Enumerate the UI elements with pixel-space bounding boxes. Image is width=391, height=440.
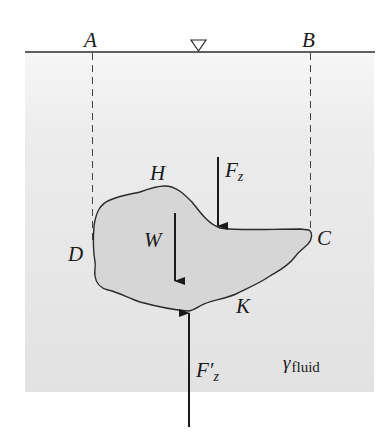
label-force-fz-prime: F′z	[196, 360, 219, 384]
label-point-a: A	[84, 30, 97, 51]
label-force-fz-main: F	[225, 158, 238, 182]
label-force-fz-prime-main: F′	[196, 358, 213, 382]
label-gamma-symbol: γ	[283, 352, 291, 373]
label-point-h: H	[150, 163, 165, 184]
free-surface-triangle-icon	[191, 40, 206, 51]
label-force-fz-sub: z	[238, 169, 243, 184]
label-point-d: D	[68, 244, 83, 265]
label-force-fz-prime-sub: z	[213, 369, 218, 384]
label-point-b: B	[302, 30, 315, 51]
label-fluid-specific-weight: γfluid	[283, 353, 320, 372]
label-gamma-sub: fluid	[292, 359, 320, 375]
label-point-k: K	[236, 296, 250, 317]
label-weight: W	[144, 230, 162, 251]
buoyancy-diagram: A B H D C K W Fz F′z γfluid	[0, 0, 391, 440]
label-force-fz: Fz	[225, 160, 243, 184]
label-point-c: C	[317, 228, 331, 249]
